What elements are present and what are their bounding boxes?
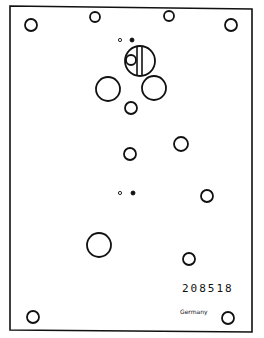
hole-top-mid-left [90, 12, 100, 22]
hole-large-right [142, 76, 166, 100]
hole-pin-lower-filled [131, 191, 135, 195]
hole-right-lower [201, 190, 213, 202]
hole-pin-upper-filled [130, 38, 134, 42]
hole-main-bore [125, 46, 155, 76]
hole-bottom-left-corner [27, 311, 39, 323]
hole-center-below [125, 102, 137, 114]
hole-bottom-right-corner [222, 312, 234, 324]
hole-pin-lower-open [118, 191, 121, 194]
hole-large-left [96, 77, 120, 101]
hole-pin-upper-open [118, 38, 121, 41]
hole-top-right-corner [225, 19, 237, 31]
hole-mid-center [124, 148, 136, 160]
hole-lower-right [183, 253, 195, 265]
part-number-label: 208518 [182, 282, 234, 295]
hole-top-mid-right [164, 11, 174, 21]
hole-mid-right [174, 137, 188, 151]
holes-group [25, 11, 237, 324]
hole-main-bore-inner [126, 55, 136, 65]
origin-label: Germany [180, 308, 208, 315]
hole-large-lower-left [87, 233, 111, 257]
hole-top-left-corner [25, 19, 37, 31]
